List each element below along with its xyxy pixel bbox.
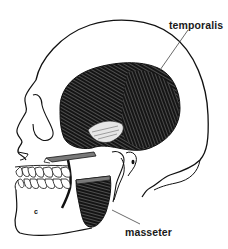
zygomatic-arch (46, 152, 96, 162)
upper-jaw-line (15, 165, 70, 167)
mastoid-region (126, 152, 136, 176)
skull-illustration: c (0, 0, 228, 249)
lower-teeth (18, 179, 70, 189)
upper-teeth (16, 167, 70, 177)
occipital-detail (154, 160, 200, 190)
masseter-label: masseter (125, 226, 172, 238)
chin-front (15, 180, 18, 190)
skull-muscle-diagram: c temporalis masseter (0, 0, 228, 249)
styloid-process (114, 158, 124, 200)
orbit (33, 95, 53, 141)
temporalis-label: temporalis (169, 19, 223, 31)
masseter-leader-line (112, 210, 140, 224)
face-profile (17, 80, 36, 160)
mental-foramen-mark: c (34, 208, 38, 215)
ear-canal (132, 160, 135, 165)
